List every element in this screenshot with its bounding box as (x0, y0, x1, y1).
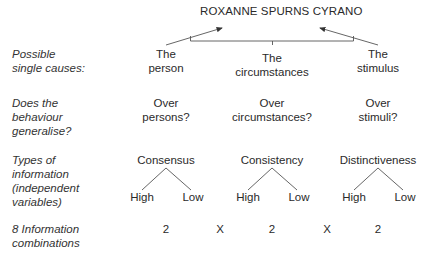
combo-value-1: 2 (156, 222, 176, 236)
cause-stimulus: Thestimulus (348, 47, 408, 75)
combo-value-2: 2 (262, 222, 282, 236)
tree-distinctiveness (354, 168, 403, 190)
label-combinations: 8 Information combinations (12, 222, 80, 250)
combo-value-3: 2 (368, 222, 388, 236)
distinctiveness-high: High (334, 190, 374, 204)
combo-operator-1: X (210, 222, 230, 236)
cause-circumstances: Thecircumstances (222, 51, 322, 79)
label-causes: Possible single causes: (12, 47, 85, 75)
consensus-low: Low (173, 190, 213, 204)
generalise-stimuli: Overstimuli? (338, 96, 418, 124)
tree-consistency (248, 168, 297, 190)
generalise-circumstances: Overcircumstances? (222, 96, 322, 124)
info-consensus: Consensus (116, 153, 216, 167)
tree-consensus (142, 168, 191, 190)
cause-person: Theperson (136, 47, 196, 75)
consistency-high: High (228, 190, 268, 204)
distinctiveness-low: Low (385, 190, 422, 204)
info-consistency: Consistency (222, 153, 322, 167)
label-info: Types of information (independent variab… (12, 153, 79, 209)
consistency-low: Low (279, 190, 319, 204)
label-generalise: Does the behaviour generalise? (12, 96, 71, 138)
combo-operator-2: X (317, 222, 337, 236)
arrow-stimulus (320, 28, 378, 45)
info-distinctiveness: Distinctiveness (328, 153, 422, 167)
bracket-line (191, 36, 354, 41)
arrow-person (166, 28, 222, 45)
consensus-high: High (122, 190, 162, 204)
generalise-persons: Overpersons? (126, 96, 206, 124)
